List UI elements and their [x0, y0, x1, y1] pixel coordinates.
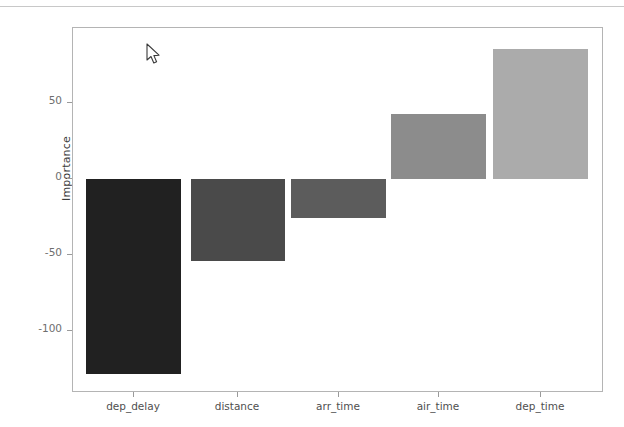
x-tick-mark-air-time [438, 392, 439, 397]
x-tick-mark-dep-time [540, 392, 541, 397]
x-tick-mark-arr-time [338, 392, 339, 397]
y-tick-label-minus-50: -50 [45, 246, 62, 258]
bar-dep-time[interactable] [493, 49, 588, 179]
plot-panel [72, 27, 603, 392]
importance-bar-chart: Importance 50 0 -50 -100 dep_delay dista… [0, 0, 624, 427]
y-tick-label-50: 50 [49, 94, 62, 106]
bar-arr-time[interactable] [291, 179, 386, 218]
x-tick-label-dep-time: dep_time [480, 400, 600, 412]
bar-distance[interactable] [191, 179, 285, 261]
y-tick-label-0: 0 [55, 170, 62, 182]
y-axis-title: Importance [60, 89, 73, 249]
bar-air-time[interactable] [391, 114, 486, 179]
y-tick-label-minus-100: -100 [38, 322, 62, 334]
x-tick-label-dep-delay: dep_delay [73, 400, 193, 412]
bar-dep-delay[interactable] [86, 179, 181, 374]
x-tick-mark-dep-delay [133, 392, 134, 397]
x-tick-mark-distance [237, 392, 238, 397]
